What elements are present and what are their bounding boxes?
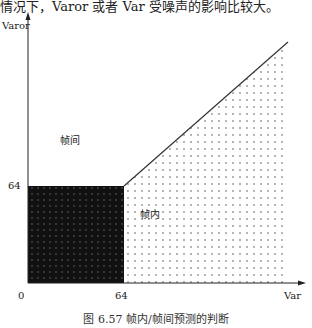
x-axis-arrow-icon <box>298 281 306 286</box>
intra-region <box>124 42 288 283</box>
figure-caption: 图 6.57 帧内/帧间预测的判断 <box>0 310 312 326</box>
x-axis-label: Var <box>284 290 301 301</box>
region-intra-label: 帧内 <box>140 206 160 221</box>
region-inter-label: 帧间 <box>60 132 80 147</box>
dark-region <box>28 186 124 283</box>
origin-label: 0 <box>18 290 24 301</box>
y-axis-arrow-icon <box>26 12 31 20</box>
y-axis-label: Varor <box>2 20 30 31</box>
x-tick-64: 64 <box>115 290 128 301</box>
y-tick-64: 64 <box>8 180 21 191</box>
diagram-canvas <box>0 0 312 328</box>
